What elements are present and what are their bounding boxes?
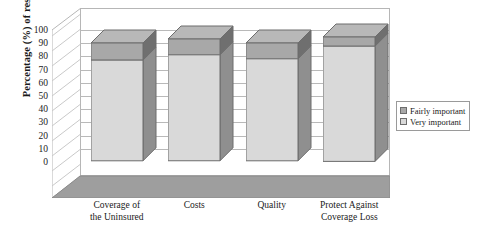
bar-face-very-important bbox=[246, 59, 298, 161]
legend-swatch-very-important bbox=[400, 118, 407, 125]
bar-series-group bbox=[52, 8, 390, 198]
y-tick-label: 20 bbox=[39, 131, 49, 141]
bar-3d-shape bbox=[91, 28, 158, 162]
bar-face-fairly-important bbox=[323, 37, 375, 46]
y-tick-label: 70 bbox=[39, 65, 49, 75]
bar-side-lower bbox=[298, 46, 311, 161]
bar-side-lower bbox=[375, 33, 388, 161]
bar-side-lower bbox=[220, 42, 233, 161]
bar-column bbox=[246, 43, 298, 162]
legend-item: Fairly important bbox=[400, 105, 466, 116]
x-category-label: Coverage ofthe Uninsured bbox=[72, 200, 162, 223]
y-tick-label: 90 bbox=[39, 38, 49, 48]
plot-area bbox=[52, 8, 390, 198]
bar-side-lower bbox=[143, 47, 156, 161]
legend-item: Very important bbox=[400, 116, 466, 127]
bar-face-fairly-important bbox=[246, 43, 298, 59]
bar-face-very-important bbox=[91, 60, 143, 161]
bar-3d-shape bbox=[246, 28, 313, 162]
bar-face-fairly-important bbox=[168, 39, 220, 55]
y-tick-label: 100 bbox=[34, 25, 48, 35]
x-category-label-line: Quality bbox=[227, 200, 317, 212]
bar-column bbox=[91, 43, 143, 162]
bar-face-fairly-important bbox=[91, 43, 143, 60]
y-tick-label: 0 bbox=[43, 157, 48, 167]
x-category-label: Protect AgainstCoverage Loss bbox=[304, 200, 394, 223]
x-category-label-line: Coverage Loss bbox=[304, 212, 394, 224]
x-category-label: Quality bbox=[227, 200, 317, 212]
stacked-bar-chart: Percentage (%) of respondents 1009080706… bbox=[0, 0, 478, 230]
bar-face-very-important bbox=[168, 55, 220, 161]
x-category-label-line: Protect Against bbox=[304, 200, 394, 212]
bar-face-very-important bbox=[323, 46, 375, 161]
y-tick-label: 80 bbox=[39, 51, 49, 61]
legend: Fairly important Very important bbox=[396, 101, 470, 131]
x-category-label-line: the Uninsured bbox=[72, 212, 162, 224]
x-axis-category-labels: Coverage ofthe UninsuredCostsQualityProt… bbox=[52, 200, 390, 228]
bar-3d-shape bbox=[168, 24, 235, 162]
bar-column bbox=[323, 37, 375, 162]
y-tick-label: 10 bbox=[39, 144, 49, 154]
legend-label-very-important: Very important bbox=[410, 117, 461, 127]
bar-column bbox=[168, 39, 220, 162]
legend-label-fairly-important: Fairly important bbox=[410, 106, 465, 116]
y-tick-label: 50 bbox=[39, 91, 49, 101]
x-category-label: Costs bbox=[149, 200, 239, 212]
x-category-label-line: Coverage of bbox=[72, 200, 162, 212]
y-axis-tick-labels: 1009080706050403020100 bbox=[18, 28, 48, 190]
y-tick-label: 60 bbox=[39, 78, 49, 88]
y-tick-label: 30 bbox=[39, 117, 49, 127]
x-category-label-line: Costs bbox=[149, 200, 239, 212]
y-tick-label: 40 bbox=[39, 104, 49, 114]
legend-swatch-fairly-important bbox=[400, 107, 407, 114]
bar-3d-shape bbox=[323, 22, 390, 162]
